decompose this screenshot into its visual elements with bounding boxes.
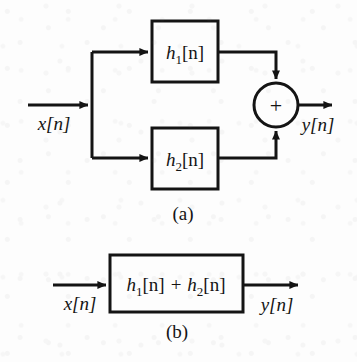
panel-a: h1[n] h2[n] + x[n] y[n] (a) [28, 21, 334, 225]
input-label-a: x[n] [37, 113, 71, 134]
panel-b-caption: (b) [166, 321, 188, 343]
h1-to-adder-path [218, 52, 276, 79]
input-label-b: x[n] [63, 293, 97, 314]
summing-junction-plus-label: + [270, 93, 282, 118]
block-diagram-figure: h1[n] h2[n] + x[n] y[n] (a) [0, 0, 357, 362]
panel-a-caption: (a) [172, 203, 193, 225]
panel-b: h1[n]+h2[n] x[n] y[n] (b) [53, 255, 298, 343]
h2-to-adder-path [218, 131, 276, 158]
output-label-b: y[n] [259, 294, 294, 315]
output-label-a: y[n] [300, 114, 335, 135]
figure-root: h1[n] h2[n] + x[n] y[n] (a) [0, 0, 357, 362]
